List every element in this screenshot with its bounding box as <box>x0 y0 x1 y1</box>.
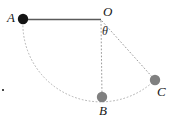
stray-speck-mark <box>2 89 4 91</box>
pendulum-figure-canvas <box>0 0 178 123</box>
bob-A <box>18 14 28 24</box>
label-point-B: B <box>99 104 107 117</box>
label-point-A: A <box>7 11 15 24</box>
bob-B <box>97 92 107 102</box>
label-point-C: C <box>157 85 166 98</box>
label-angle-theta: θ <box>102 25 108 37</box>
rod-pivot-to-C <box>102 21 154 79</box>
label-point-O: O <box>103 5 112 18</box>
pendulum-diagram: A O B C θ <box>0 0 178 123</box>
swing-arc-path <box>23 19 155 102</box>
